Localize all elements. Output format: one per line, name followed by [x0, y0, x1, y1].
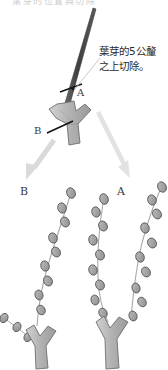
- base-fork-right: [96, 316, 128, 369]
- label-result-b: B: [20, 186, 28, 197]
- annotation-text: 葉芽的5公釐 之上切除。: [99, 44, 168, 74]
- annotation-line-2: 之上切除。: [99, 59, 168, 74]
- label-result-a: A: [117, 186, 125, 197]
- resulting-shoot-a: [96, 180, 168, 369]
- resulting-shoot-b: [0, 186, 77, 369]
- bud-cluster-b: [34, 186, 77, 316]
- label-cut-b-upper: B: [34, 126, 41, 136]
- side-spur-left: [0, 312, 34, 343]
- resulting-shoot-middle: [88, 193, 110, 322]
- annotation-line-1: 葉芽的5公釐: [99, 44, 168, 59]
- base-fork-left: [26, 325, 56, 369]
- bud-cluster-a: [128, 180, 168, 322]
- arrow-to-result-b: [26, 140, 54, 180]
- bud-cluster-middle: [88, 193, 110, 320]
- upper-specimen: [47, 8, 100, 145]
- arrow-to-result-a: [98, 112, 130, 178]
- label-cut-a-upper: A: [77, 88, 84, 98]
- leaf-bud-dot: [72, 88, 75, 91]
